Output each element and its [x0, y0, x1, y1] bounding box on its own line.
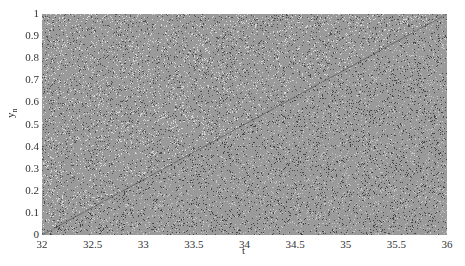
y-tick-label: 0.1: [15, 206, 39, 218]
y-tick-label: 0.9: [15, 29, 39, 41]
y-tick-label: 1: [15, 7, 39, 19]
x-axis-label: t: [242, 244, 245, 256]
x-tick-label: 33: [128, 238, 158, 250]
x-tick-label: 33.5: [179, 238, 209, 250]
y-tick-label: 0.8: [15, 51, 39, 63]
y-tick-label: 0.3: [15, 162, 39, 174]
y-tick-label: 0.5: [15, 118, 39, 130]
x-tick-label: 35: [331, 238, 361, 250]
x-tick-label: 32: [27, 238, 57, 250]
scatter-canvas: [42, 14, 447, 235]
plot-area: [42, 14, 447, 235]
y-tick-label: 0.7: [15, 73, 39, 85]
x-tick-label: 36: [432, 238, 462, 250]
y-tick-label: 0.4: [15, 140, 39, 152]
y-tick-label: 0.2: [15, 184, 39, 196]
x-tick-label: 35.5: [381, 238, 411, 250]
x-tick-label: 32.5: [78, 238, 108, 250]
y-axis-label: yn: [4, 109, 19, 119]
x-tick-label: 34.5: [280, 238, 310, 250]
y-tick-label: 0.6: [15, 95, 39, 107]
